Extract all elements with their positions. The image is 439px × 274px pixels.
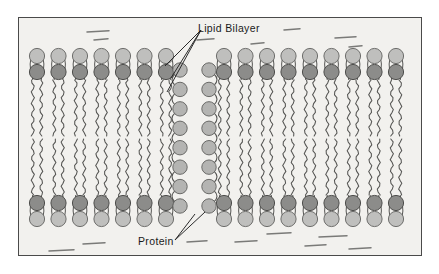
- lipid-tail: [31, 139, 34, 195]
- lipid-head-outer: [345, 211, 360, 226]
- protein-bead: [173, 199, 187, 213]
- fluid-dash-bottom-1: [49, 250, 74, 251]
- lipid-head-inner: [72, 195, 87, 210]
- lipid-head-outer: [72, 48, 87, 63]
- fluid-dash-top-5: [335, 37, 356, 38]
- lipid-head-outer: [388, 48, 403, 63]
- leader-lipid-bilayer-1: [165, 30, 201, 66]
- fluid-dash-top-0: [87, 31, 109, 32]
- lipid-head-inner: [281, 195, 296, 210]
- lipid-tail: [61, 139, 64, 195]
- lipid-head-inner: [345, 195, 360, 210]
- lipid-head-outer: [281, 48, 296, 63]
- protein-link: [172, 132, 175, 143]
- lipid-head-inner: [137, 195, 152, 210]
- lipid-tail: [240, 80, 243, 136]
- lipid-head-outer: [367, 48, 382, 63]
- protein-link: [214, 113, 217, 124]
- protein-bead: [173, 63, 187, 77]
- lipid-tail: [83, 80, 86, 136]
- lipid-head-outer: [137, 211, 152, 226]
- lipid-tail: [261, 139, 264, 195]
- lipid-tail: [104, 139, 107, 195]
- protein-link: [214, 152, 217, 163]
- lipid-head-inner: [94, 195, 109, 210]
- lipid-tail: [326, 80, 329, 136]
- diagram-frame: [18, 17, 422, 256]
- protein-bead: [202, 160, 216, 174]
- protein-link: [214, 74, 217, 85]
- fluid-dash-bottom-0: [83, 243, 105, 244]
- lipid-tail: [96, 80, 99, 136]
- lipid-head-inner: [388, 195, 403, 210]
- protein-bead: [202, 199, 216, 213]
- protein-bead: [202, 82, 216, 96]
- protein-bead: [202, 179, 216, 193]
- protein-link: [172, 93, 175, 104]
- label-protein: Protein: [138, 235, 174, 247]
- lipid-tail: [326, 139, 329, 195]
- fluid-dash-bottom-2: [187, 241, 207, 242]
- lipid-head-inner: [158, 195, 173, 210]
- lipid-head-inner: [51, 64, 66, 79]
- protein-bead: [173, 121, 187, 135]
- lipid-head-outer: [281, 211, 296, 226]
- lipid-head-inner: [94, 64, 109, 79]
- lipid-tail: [83, 139, 86, 195]
- lipid-head-inner: [216, 195, 231, 210]
- diagram-canvas: Lipid Bilayer Protein: [0, 0, 439, 274]
- lipid-head-outer: [115, 211, 130, 226]
- lipid-tail: [96, 139, 99, 195]
- lipid-tail: [304, 139, 307, 195]
- protein-bead: [202, 141, 216, 155]
- lipid-head-outer: [29, 48, 44, 63]
- lipid-head-outer: [345, 48, 360, 63]
- fluid-dash-top-3: [284, 29, 300, 30]
- protein-bead: [202, 63, 216, 77]
- lipid-head-outer: [324, 48, 339, 63]
- lipid-tail: [270, 139, 273, 195]
- lipid-tail: [347, 80, 350, 136]
- lipid-head-inner: [238, 195, 253, 210]
- fluid-dash-bottom-5: [319, 236, 347, 237]
- leader-protein-1: [175, 214, 195, 240]
- lipid-tail: [147, 80, 150, 136]
- protein-bead: [173, 179, 187, 193]
- lipid-head-outer: [259, 211, 274, 226]
- lipid-tail: [291, 139, 294, 195]
- lipid-tail: [160, 80, 163, 136]
- lipid-head-outer: [115, 48, 130, 63]
- lipid-tail: [313, 139, 316, 195]
- lipid-tail: [377, 80, 380, 136]
- lipid-tail: [356, 80, 359, 136]
- lipid-head-inner: [324, 64, 339, 79]
- lipid-head-inner: [281, 64, 296, 79]
- lipid-tail: [40, 139, 43, 195]
- lipid-tail: [160, 139, 163, 195]
- lipid-head-outer: [259, 48, 274, 63]
- lipid-tail: [218, 80, 221, 136]
- protein-bead: [202, 121, 216, 135]
- lipid-head-inner: [259, 64, 274, 79]
- lipid-tail: [334, 80, 337, 136]
- lipid-head-outer: [238, 211, 253, 226]
- lipid-head-outer: [302, 211, 317, 226]
- lipid-head-inner: [216, 64, 231, 79]
- lipid-tail: [147, 139, 150, 195]
- fluid-dash-top-4: [251, 43, 264, 44]
- protein-link: [172, 113, 175, 124]
- lipid-tail: [139, 139, 142, 195]
- lipid-head-outer: [94, 48, 109, 63]
- lipid-head-inner: [137, 64, 152, 79]
- lipid-head-inner: [324, 195, 339, 210]
- leader-protein-2: [175, 212, 205, 240]
- lipid-head-inner: [259, 195, 274, 210]
- lipid-tail: [369, 139, 372, 195]
- lipid-tail: [139, 80, 142, 136]
- lipid-head-inner: [388, 64, 403, 79]
- lipid-tail: [240, 139, 243, 195]
- protein-bead: [173, 141, 187, 155]
- fluid-dash-bottom-4: [267, 233, 291, 234]
- lipid-tail: [227, 80, 230, 136]
- lipid-tail: [313, 80, 316, 136]
